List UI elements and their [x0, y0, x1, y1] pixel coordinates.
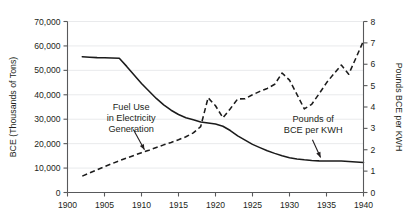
- y-tick-label-left: 60,000: [34, 41, 61, 51]
- y-axis-title-right: Pounds BCE per KWH: [394, 63, 404, 152]
- y-axis-title-left: BCE (Thousands of Tons): [8, 57, 18, 158]
- x-tick-label: 1900: [58, 200, 77, 210]
- y-tick-label-left: 10,000: [34, 163, 61, 173]
- chart-figure: 010,00020,00030,00040,00050,00060,00070,…: [0, 0, 408, 224]
- y-tick-label-right: 6: [371, 59, 376, 69]
- y-tick-label-left: 40,000: [34, 90, 61, 100]
- dual-axis-line-chart: 010,00020,00030,00040,00050,00060,00070,…: [0, 0, 408, 224]
- y-tick-label-right: 0: [371, 188, 376, 198]
- y-tick-label-left: 0: [56, 188, 61, 198]
- x-tick-label: 1920: [206, 200, 225, 210]
- x-tick-label: 1935: [317, 200, 336, 210]
- bce-per-kwh-annotation-text: Pounds ofBCE per KWH: [284, 114, 343, 135]
- x-tick-label: 1915: [169, 200, 188, 210]
- y-tick-label-right: 5: [371, 81, 376, 91]
- y-tick-label-right: 8: [371, 17, 376, 27]
- y-tick-label-right: 3: [371, 123, 376, 133]
- x-tick-label: 1910: [132, 200, 151, 210]
- x-tick-label: 1925: [243, 200, 262, 210]
- y-tick-label-right: 4: [371, 102, 376, 112]
- x-tick-label: 1930: [280, 200, 299, 210]
- y-tick-label-right: 2: [371, 145, 376, 155]
- fuel-use-annotation-text: Fuel Usein ElectricityGeneration: [107, 102, 156, 134]
- x-tick-label: 1905: [95, 200, 114, 210]
- x-tick-label: 1940: [354, 200, 373, 210]
- y-tick-label-left: 70,000: [34, 17, 61, 27]
- y-tick-label-right: 7: [371, 38, 376, 48]
- y-tick-label-left: 50,000: [34, 65, 61, 75]
- y-tick-label-left: 30,000: [34, 114, 61, 124]
- y-tick-label-left: 20,000: [34, 139, 61, 149]
- y-tick-label-right: 1: [371, 166, 376, 176]
